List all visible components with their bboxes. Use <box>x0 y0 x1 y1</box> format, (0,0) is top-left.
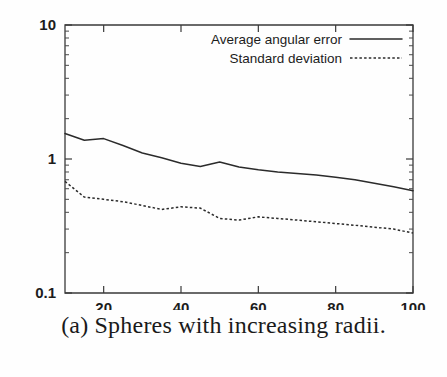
x-tick-label: 40 <box>173 299 190 310</box>
chart-plot-area: 0.1110 20406080100 Average angular error… <box>0 0 447 310</box>
y-axis-tick-labels: 0.1110 <box>35 16 56 301</box>
y-tick-label: 10 <box>39 16 56 33</box>
legend-label-1: Average angular error <box>211 32 343 47</box>
chart-legend: Average angular errorStandard deviation <box>211 32 402 66</box>
series-line-1 <box>65 134 413 191</box>
legend-label-2: Standard deviation <box>229 51 342 66</box>
y-tick-label: 1 <box>48 150 56 167</box>
series-line-2 <box>65 181 413 233</box>
x-tick-label: 60 <box>250 299 267 310</box>
y-tick-label: 0.1 <box>35 284 56 301</box>
x-tick-label: 20 <box>95 299 112 310</box>
line-chart-svg: 0.1110 20406080100 Average angular error… <box>0 0 447 310</box>
x-axis-tick-labels: 20406080100 <box>95 299 425 310</box>
x-tick-label: 80 <box>327 299 344 310</box>
figure-caption: (a) Spheres with increasing radii. <box>0 312 447 339</box>
figure-container: 0.1110 20406080100 Average angular error… <box>0 0 447 377</box>
x-tick-label: 100 <box>400 299 425 310</box>
data-series-group <box>65 134 413 234</box>
